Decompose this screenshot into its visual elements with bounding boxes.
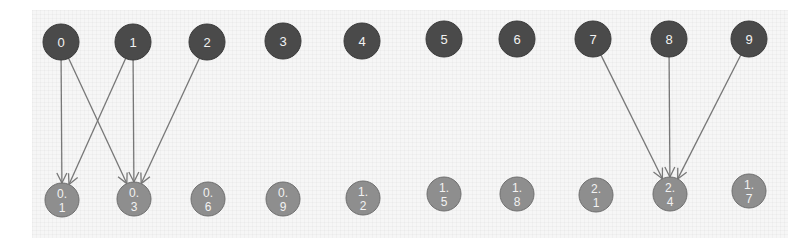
node-label-line2: 8	[514, 195, 521, 209]
edge-t1-b1	[133, 60, 134, 182]
node-label-line1: 0.	[203, 186, 213, 200]
bipartite-graph: 0123456789 0.10.30.60.91.21.51.82.12.41.…	[0, 0, 805, 246]
node-label-line2: 1	[59, 201, 66, 215]
node-label: 9	[745, 32, 752, 47]
edge-t2-b1	[141, 58, 199, 183]
top-node-8[interactable]: 8	[651, 21, 687, 57]
top-node-7[interactable]: 7	[575, 21, 611, 57]
edges-layer	[61, 55, 741, 185]
node-label-line2: 6	[205, 200, 212, 214]
bottom-node-1.2[interactable]: 1.2	[346, 181, 380, 215]
node-label-line2: 7	[746, 192, 753, 206]
node-label-line1: 0.	[129, 186, 139, 200]
node-label-line1: 1.	[358, 185, 368, 199]
bottom-node-2.4[interactable]: 2.4	[653, 177, 687, 211]
node-label-line2: 1	[593, 196, 600, 210]
bottom-node-0.6[interactable]: 0.6	[191, 182, 225, 216]
top-node-5[interactable]: 5	[426, 21, 462, 57]
bottom-node-0.1[interactable]: 0.1	[45, 183, 79, 217]
bottom-node-0.9[interactable]: 0.9	[266, 182, 300, 216]
top-nodes-layer: 0123456789	[43, 21, 767, 60]
node-label-line2: 4	[667, 195, 674, 209]
bottom-node-0.3[interactable]: 0.3	[117, 182, 151, 216]
node-label-line2: 2	[360, 199, 367, 213]
edge-t9-b8	[678, 55, 741, 179]
top-node-4[interactable]: 4	[344, 23, 380, 59]
edge-t7-b8	[601, 55, 662, 179]
top-node-1[interactable]: 1	[115, 24, 151, 60]
bottom-node-2.1[interactable]: 2.1	[579, 178, 613, 212]
node-label-line1: 1.	[439, 181, 449, 195]
node-label-line2: 9	[280, 200, 287, 214]
node-label: 4	[358, 34, 365, 49]
node-label: 8	[665, 32, 672, 47]
node-label: 2	[203, 35, 210, 50]
node-label: 5	[440, 32, 447, 47]
node-label: 3	[279, 34, 286, 49]
diagram-stage: 0123456789 0.10.30.60.91.21.51.82.12.41.…	[0, 0, 805, 246]
top-node-9[interactable]: 9	[731, 21, 767, 57]
node-label-line1: 0.	[278, 186, 288, 200]
node-label-line2: 3	[131, 200, 138, 214]
top-node-2[interactable]: 2	[189, 24, 225, 60]
node-label-line1: 2.	[665, 181, 675, 195]
node-label-line1: 1.	[512, 181, 522, 195]
node-label: 0	[57, 35, 64, 50]
top-node-6[interactable]: 6	[499, 21, 535, 57]
node-label-line1: 1.	[744, 178, 754, 192]
bottom-nodes-layer: 0.10.30.60.91.21.51.82.12.41.7	[45, 174, 766, 217]
node-label-line1: 2.	[591, 182, 601, 196]
node-label-line1: 0.	[57, 187, 67, 201]
edge-t8-b8	[669, 57, 670, 177]
bottom-node-1.8[interactable]: 1.8	[500, 177, 534, 211]
top-node-0[interactable]: 0	[43, 24, 79, 60]
bottom-node-1.5[interactable]: 1.5	[427, 177, 461, 211]
edge-t0-b0	[61, 60, 62, 183]
node-label-line2: 5	[441, 195, 448, 209]
bottom-node-1.7[interactable]: 1.7	[732, 174, 766, 208]
node-label: 1	[129, 35, 136, 50]
node-label: 6	[513, 32, 520, 47]
node-label: 7	[589, 32, 596, 47]
top-node-3[interactable]: 3	[265, 23, 301, 59]
